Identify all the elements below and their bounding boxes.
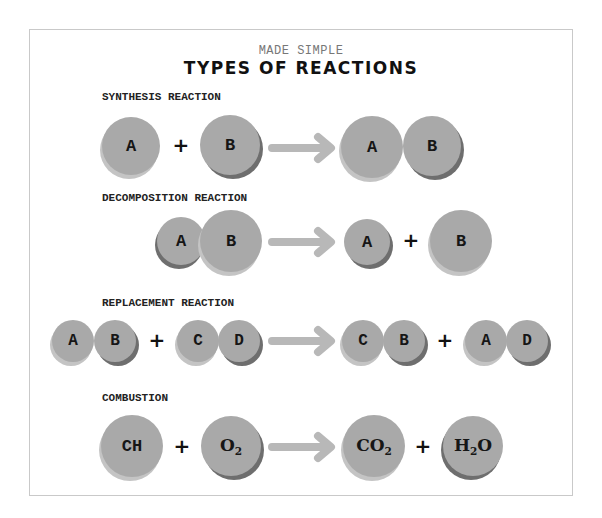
section-label-replacement: REPLACEMENT REACTION [102,297,234,309]
atom-a: A [344,219,390,265]
arrow-right-icon [268,132,340,164]
atom-a: A [102,117,160,175]
section-label-combustion: COMBUSTION [102,392,168,404]
atom-b: B [430,210,492,272]
atom-b: B [403,116,461,176]
atom-label: A [367,138,377,157]
molecule-co2: CO2 [343,415,405,477]
atom-label: B [456,232,466,251]
molecule-ch: CH [101,415,163,477]
page-title: TYPES OF REACTIONS [0,58,602,78]
atom-label: B [225,136,235,155]
atom-label: B [226,232,236,251]
atom-label: A [362,233,372,252]
atom-a: A [341,116,403,178]
atom-d: D [218,320,260,362]
atom-label: B [399,332,409,350]
atom-label: B [427,137,437,156]
atom-label: D [234,332,244,350]
atom-label: A [68,332,78,350]
atom-label: A [126,137,136,156]
atom-a: A [52,320,94,362]
plus-sign: + [435,328,455,352]
atom-b: B [200,210,262,272]
molecule-label: H2O [454,435,492,457]
atom-a: A [157,217,205,265]
molecule-h2o: H2O [443,416,503,476]
plus-sign: + [413,434,433,458]
atom-c: C [342,320,384,362]
atom-label: B [110,332,120,350]
atom-b: B [200,115,260,175]
atom-label: A [176,232,186,251]
atom-a: A [465,320,507,362]
plus-sign: + [401,228,421,252]
subtitle: MADE SIMPLE [0,44,602,58]
atom-b: B [94,320,136,362]
molecule-label: CH [122,437,142,456]
plus-sign: + [171,133,191,157]
atom-label: C [358,332,368,350]
atom-c: C [177,320,219,362]
section-label-decomposition: DECOMPOSITION REACTION [102,192,247,204]
section-label-synthesis: SYNTHESIS REACTION [102,91,221,103]
molecule-label: O2 [220,435,242,457]
atom-label: C [193,332,203,350]
molecule-o2: O2 [201,416,261,476]
plus-sign: + [172,434,192,458]
arrow-right-icon [268,431,340,463]
plus-sign: + [147,328,167,352]
arrow-right-icon [268,325,340,357]
molecule-label: CO2 [356,435,392,457]
atom-label: D [522,332,532,350]
atom-d: D [506,320,548,362]
arrow-right-icon [268,226,340,258]
atom-b: B [383,320,425,362]
atom-label: A [481,332,491,350]
